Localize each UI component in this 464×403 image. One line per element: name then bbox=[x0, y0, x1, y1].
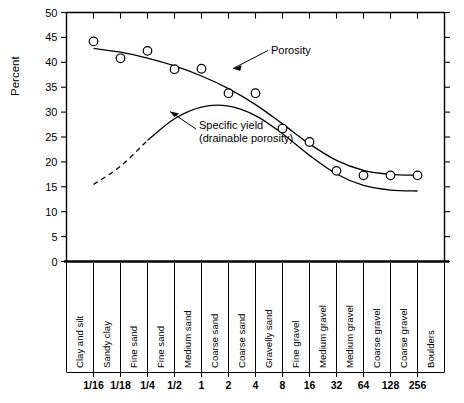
y-tick-label: 20 bbox=[45, 156, 57, 168]
right-axis bbox=[445, 12, 451, 262]
top-axis bbox=[67, 13, 445, 19]
category-label: Medium gravel bbox=[344, 305, 355, 368]
x-tick-label: 1/4 bbox=[140, 379, 155, 391]
right-axis-ticks bbox=[445, 13, 451, 262]
top-axis-ticks bbox=[94, 13, 418, 19]
y-tick-label: 5 bbox=[51, 231, 57, 243]
category-label: Fine sand bbox=[128, 326, 139, 368]
annotation-porosity: Porosity bbox=[233, 44, 311, 71]
specific-yield-dashed-extension bbox=[94, 140, 148, 184]
x-tick-label: 8 bbox=[280, 379, 286, 391]
y-tick-label: 45 bbox=[45, 31, 57, 43]
category-label: Coarse gravel bbox=[398, 308, 409, 368]
data-point-marker bbox=[143, 47, 152, 56]
x-tick-label: 1/2 bbox=[167, 379, 182, 391]
y-tick-label: 25 bbox=[45, 131, 57, 143]
y-tick-label: 30 bbox=[45, 106, 57, 118]
data-point-marker bbox=[116, 54, 125, 63]
x-tick-label: 64 bbox=[358, 379, 370, 391]
data-point-marker bbox=[170, 65, 179, 74]
x-tick-label: 1 bbox=[199, 379, 205, 391]
porosity-data-markers bbox=[89, 37, 422, 180]
x-tick-label: 2 bbox=[226, 379, 232, 391]
specific-yield-annotation-label-line1: Specific yield bbox=[199, 119, 263, 131]
data-point-marker bbox=[197, 64, 206, 73]
y-axis-ticks bbox=[61, 13, 67, 262]
data-point-marker bbox=[332, 167, 341, 176]
specific-yield-annotation-label-line2: (drainable porosity) bbox=[199, 132, 293, 144]
x-tick-label: 128 bbox=[382, 379, 400, 391]
x-tick-label: 4 bbox=[253, 379, 259, 391]
data-point-marker bbox=[89, 37, 98, 46]
data-point-marker bbox=[413, 171, 422, 180]
y-axis: 05101520253035404550 Percent bbox=[9, 7, 67, 268]
category-label: Fine sand bbox=[155, 326, 166, 368]
category-label: Coarse sand bbox=[236, 314, 247, 368]
chart-root: 05101520253035404550 Percent Porosity bbox=[0, 0, 464, 403]
y-tick-label: 15 bbox=[45, 181, 57, 193]
data-point-marker bbox=[251, 89, 260, 98]
porosity-leader-line bbox=[233, 51, 268, 69]
x-tick-label: 256 bbox=[409, 379, 427, 391]
porosity-specific-yield-chart: 05101520253035404550 Percent Porosity bbox=[0, 0, 464, 403]
data-point-marker bbox=[386, 171, 395, 180]
category-label: Boulders bbox=[425, 330, 436, 368]
y-axis-title: Percent bbox=[9, 56, 21, 96]
y-tick-label: 50 bbox=[45, 7, 57, 19]
category-label: Medium sand bbox=[182, 310, 193, 368]
category-label: Clay and silt bbox=[74, 315, 85, 368]
category-label: Coarse gravel bbox=[371, 308, 382, 368]
porosity-annotation-label: Porosity bbox=[271, 44, 311, 56]
x-tick-label: 32 bbox=[331, 379, 343, 391]
data-point-marker bbox=[224, 89, 233, 98]
data-point-marker bbox=[359, 171, 368, 180]
y-axis-tick-labels: 05101520253035404550 bbox=[45, 7, 57, 268]
category-label: Fine gravel bbox=[290, 321, 301, 368]
category-label: Coarse sand bbox=[209, 314, 220, 368]
x-tick-label: 1/16 bbox=[83, 379, 104, 391]
y-tick-label: 35 bbox=[45, 81, 57, 93]
category-label: Gravelly sand bbox=[263, 309, 274, 368]
porosity-curve bbox=[94, 48, 418, 175]
x-axis-tick-labels: 1/161/181/41/21248163264128256 bbox=[83, 379, 426, 391]
category-label: Medium gravel bbox=[317, 305, 328, 368]
category-label: Sandy clay bbox=[101, 321, 112, 368]
data-point-marker bbox=[305, 138, 314, 147]
y-tick-label: 40 bbox=[45, 56, 57, 68]
specific-yield-curve bbox=[148, 105, 418, 191]
x-tick-label: 1/18 bbox=[110, 379, 131, 391]
y-tick-label: 0 bbox=[51, 256, 57, 268]
category-band: Clay and siltSandy clayFine sandFine san… bbox=[67, 263, 445, 373]
x-tick-label: 16 bbox=[304, 379, 316, 391]
y-tick-label: 10 bbox=[45, 206, 57, 218]
